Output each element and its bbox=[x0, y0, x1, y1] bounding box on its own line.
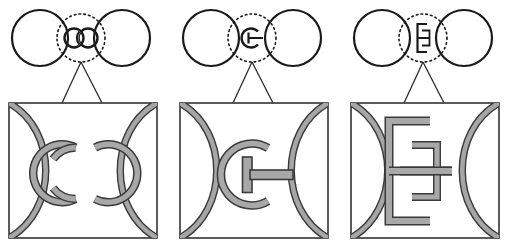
figure-canvas bbox=[0, 0, 513, 252]
panel-2-magnified-box bbox=[180, 103, 328, 238]
panel-1-magnified-box bbox=[9, 103, 157, 238]
figure-root bbox=[0, 0, 513, 252]
panel-3-magnified-box bbox=[351, 103, 499, 238]
